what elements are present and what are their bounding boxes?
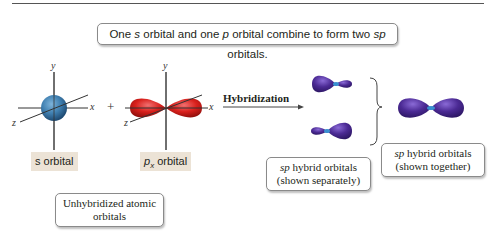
caption-line: sp hybrid orbitals [273, 161, 364, 174]
sp-together-caption: sp hybrid orbitals (shown together) [381, 143, 485, 177]
px-orbital-label: px orbital [140, 152, 191, 171]
p-z-axis-label: z [124, 117, 128, 128]
caption-sp: sp [280, 161, 290, 173]
sp-orbital-separate-2 [311, 123, 352, 140]
brace [370, 78, 382, 145]
caption-line: sp hybrid orbitals [388, 147, 478, 160]
plus-sign: + [107, 99, 114, 115]
caption-line: (shown together) [388, 160, 478, 173]
hybridization-label: Hybridization [223, 92, 289, 104]
px-orbital-figure [125, 72, 208, 150]
caption-line: Unhybridized atomic [62, 197, 157, 210]
s-orbital-label-text: s orbital [35, 155, 74, 167]
sp-separate-caption: sp hybrid orbitals (shown separately) [266, 157, 371, 191]
caption-line: (shown separately) [273, 174, 364, 187]
hybridization-arrow [223, 105, 304, 110]
sp-orbital-together [398, 98, 464, 118]
sp-orbital-separate-1 [312, 76, 352, 93]
p-y-axis-label: y [163, 60, 167, 71]
s-orbital-label: s orbital [31, 152, 78, 171]
px-rest: orbital [154, 155, 187, 167]
unhybridized-caption: Unhybridized atomic orbitals [55, 193, 164, 227]
caption-text: hybrid orbitals [290, 161, 357, 173]
s-x-axis-label: x [90, 101, 94, 112]
caption-line: orbitals [62, 210, 157, 223]
caption-sp: sp [395, 147, 405, 159]
s-y-axis-label: y [51, 60, 55, 71]
caption-text: hybrid orbitals [404, 147, 471, 159]
p-x-axis-label: x [209, 101, 213, 112]
s-orbital-figure [18, 72, 88, 150]
s-z-axis-label: z [12, 117, 16, 128]
